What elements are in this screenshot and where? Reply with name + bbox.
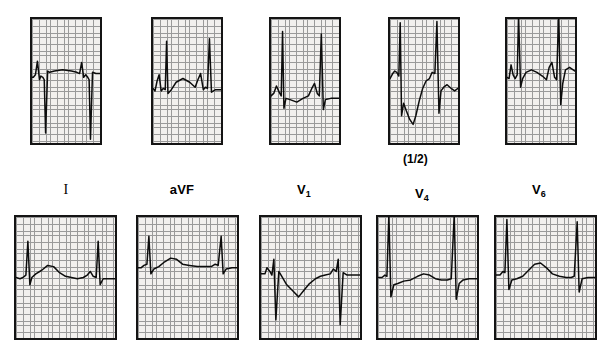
- ecg-figure: IaVFV1V4V6(1/2): [0, 0, 606, 353]
- ecg-trace: [261, 217, 360, 338]
- ecg-trace: [153, 19, 221, 143]
- lead-label-V1: V1: [268, 182, 340, 197]
- ecg-panel-bottom-panel-2: [136, 215, 239, 340]
- ecg-trace: [32, 19, 100, 143]
- ecg-trace: [16, 217, 115, 338]
- lead-label-text: V: [532, 182, 541, 197]
- lead-label-I: I: [30, 182, 102, 198]
- lead-label-text: V: [415, 186, 424, 201]
- lead-label-subscript: 4: [424, 193, 429, 203]
- ecg-panel-top-panel-2: [151, 17, 223, 145]
- ecg-panel-bottom-panel-3: [259, 215, 362, 340]
- lead-label-text: V: [297, 182, 306, 197]
- ecg-trace: [271, 19, 339, 143]
- ecg-trace: [138, 217, 237, 338]
- half-standard-annotation: (1/2): [403, 152, 428, 166]
- ecg-trace: [507, 19, 575, 143]
- lead-label-text: aVF: [170, 182, 194, 197]
- ecg-panel-bottom-panel-1: [14, 215, 117, 340]
- lead-label-subscript: 1: [306, 189, 311, 199]
- lead-label-V6: V6: [503, 182, 575, 197]
- lead-label-V4: V4: [386, 186, 458, 201]
- ecg-panel-top-panel-1: [30, 17, 102, 145]
- ecg-trace: [390, 19, 458, 143]
- ecg-panel-top-panel-4: [388, 17, 460, 145]
- lead-label-aVF: aVF: [146, 182, 218, 197]
- ecg-panel-bottom-panel-4: [376, 215, 479, 340]
- lead-label-text: I: [64, 182, 69, 197]
- ecg-panel-bottom-panel-5: [494, 215, 597, 340]
- ecg-trace: [378, 217, 477, 338]
- lead-label-subscript: 6: [541, 189, 546, 199]
- ecg-panel-top-panel-3: [269, 17, 341, 145]
- ecg-trace: [496, 217, 595, 338]
- ecg-panel-top-panel-5: [505, 17, 577, 145]
